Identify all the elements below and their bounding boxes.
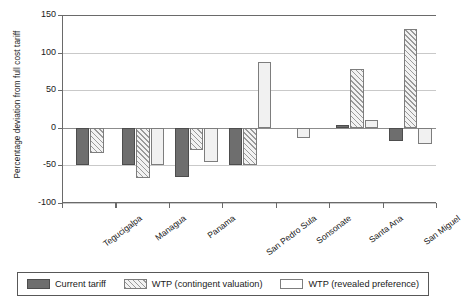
x-category-label: San Pedro Sula: [265, 213, 319, 257]
plot-area: [62, 15, 436, 203]
x-tick: [62, 203, 63, 208]
y-tick-label: 0: [16, 123, 56, 132]
legend-item: Current tariff: [27, 279, 106, 289]
bar: [76, 128, 90, 166]
bar: [229, 128, 243, 166]
x-tick: [169, 203, 170, 208]
hatched-swatch: [124, 279, 147, 289]
bar-group: [223, 15, 276, 202]
chart-legend: Current tariffWTP (contingent valuation)…: [17, 272, 429, 296]
y-axis-title: Percentage deviation from full cost tari…: [13, 5, 22, 205]
bar: [204, 128, 218, 162]
x-category-label: Tegucigalpa: [101, 213, 144, 249]
x-tick: [276, 203, 277, 208]
y-tick-label: 100: [16, 48, 56, 57]
bar-group: [116, 15, 169, 202]
y-tick-label: -100: [16, 198, 56, 207]
legend-item: WTP (contingent valuation): [124, 279, 263, 289]
bar: [122, 128, 136, 166]
legend-item: WTP (revealed preference): [280, 279, 419, 289]
bar: [297, 128, 311, 139]
bar: [404, 29, 418, 128]
bar: [350, 69, 364, 128]
gridline--100: [63, 203, 436, 204]
open-swatch: [280, 279, 303, 289]
x-category-label: San Miguel: [421, 213, 461, 247]
x-tick: [436, 203, 437, 208]
bar: [136, 128, 150, 178]
bar-group: [63, 15, 116, 202]
bar: [243, 128, 257, 166]
bar: [336, 125, 350, 128]
y-tick-label: 50: [16, 85, 56, 94]
x-tick: [115, 203, 116, 208]
bar-group: [330, 15, 383, 202]
x-category-label: Managua: [153, 213, 188, 243]
bar: [418, 128, 432, 145]
bar: [190, 128, 204, 151]
bar-group: [170, 15, 223, 202]
bar: [258, 62, 272, 127]
x-category-label: Santa Ana: [367, 213, 405, 245]
bar: [365, 120, 379, 128]
bar: [151, 128, 165, 166]
x-category-label: Panama: [205, 213, 237, 240]
solid-dark-swatch: [27, 279, 50, 289]
x-tick: [222, 203, 223, 208]
legend-label: WTP (revealed preference): [308, 279, 419, 289]
y-tick-label: -50: [16, 160, 56, 169]
x-category-label: Sonsonate: [314, 213, 353, 246]
legend-label: Current tariff: [55, 279, 106, 289]
bar-group: [277, 15, 330, 202]
x-tick: [329, 203, 330, 208]
x-tick: [383, 203, 384, 208]
bar: [90, 128, 104, 153]
bar: [175, 128, 189, 177]
legend-label: WTP (contingent valuation): [152, 279, 263, 289]
bar: [389, 128, 403, 141]
y-tick-label: 150: [16, 10, 56, 19]
bar-group: [384, 15, 437, 202]
